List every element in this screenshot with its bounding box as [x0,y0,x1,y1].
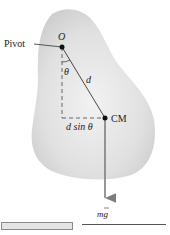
lever-arm-label: d sin θ [66,121,93,132]
physical-pendulum-diagram: Pivot O θ d d sin θ CM mg [0,0,170,235]
rigid-body [32,9,155,179]
pivot-label: Pivot [4,38,25,49]
footer-line [82,224,166,225]
pivot-point [60,45,65,50]
theta-label: θ [64,66,69,77]
origin-label: O [58,31,65,42]
center-of-mass-label: CM [111,113,127,124]
center-of-mass-point [103,116,108,121]
weight-label: mg [97,209,108,219]
footer-bar [1,222,73,230]
